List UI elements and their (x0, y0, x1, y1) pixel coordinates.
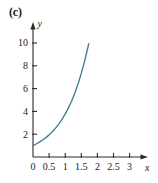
y-axis-label: y (37, 18, 43, 29)
x-tick-label: 1.5 (75, 161, 88, 172)
x-tick-label: 3 (127, 161, 132, 172)
x-tick-group: 00.511.522.53 (31, 153, 133, 172)
y-tick-label: 2 (23, 129, 28, 140)
y-tick-label: 6 (23, 83, 28, 94)
y-tick-group: 246810 (18, 37, 37, 139)
x-tick-label: 2.5 (107, 161, 120, 172)
figure-panel: (c) y x 246810 00.511.522.53 (0, 0, 158, 183)
x-tick-label: 0 (31, 161, 36, 172)
x-axis-label: x (144, 162, 150, 173)
y-tick-label: 4 (23, 106, 28, 117)
y-tick-label: 10 (18, 37, 28, 48)
y-axis-arrow-icon (30, 22, 35, 30)
x-axis-arrow-icon (141, 154, 149, 159)
y-tick-label: 8 (23, 60, 28, 71)
data-curve (33, 44, 89, 146)
x-tick-label: 2 (95, 161, 100, 172)
x-tick-label: 1 (63, 161, 68, 172)
exponential-growth-chart: y x 246810 00.511.522.53 (0, 0, 158, 183)
x-tick-label: 0.5 (43, 161, 56, 172)
